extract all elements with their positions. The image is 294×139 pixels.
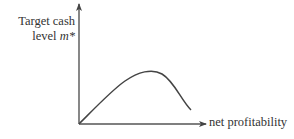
diagram-canvas: Target cash level m* net profitability xyxy=(0,0,294,139)
y-axis-label: Target cash level m* xyxy=(18,14,75,44)
y-axis-label-line1: Target cash xyxy=(18,14,75,29)
y-axis-label-line2-text: level xyxy=(32,29,59,43)
y-axis-label-line2: level m* xyxy=(18,29,75,44)
x-axis-label: net profitability xyxy=(209,115,287,130)
y-axis-label-symbol: m* xyxy=(60,29,75,43)
target-cash-curve xyxy=(79,71,191,124)
